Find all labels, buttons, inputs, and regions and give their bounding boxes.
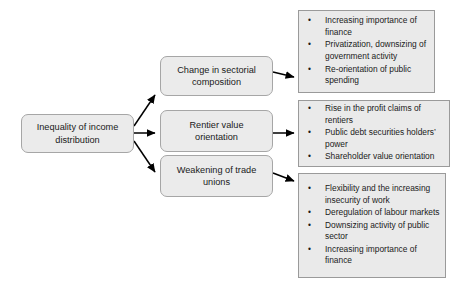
- list-item-label: Flexibility and the increasing insecurit…: [325, 183, 430, 205]
- arrow-source-to-unions: [134, 141, 155, 172]
- bullet-icon: •: [308, 151, 311, 163]
- list-item: • Rise in the profit claims of rentiers: [305, 103, 445, 126]
- arrow-sectorial-to-outcomes: [273, 72, 294, 77]
- outcomes-box-rentier[interactable]: • Rise in the profit claims of rentiers …: [298, 100, 450, 167]
- outcomes-list: • Flexibility and the increasing insecur…: [305, 183, 441, 268]
- list-item-label: Public debt securities holders’ power: [325, 127, 435, 149]
- node-label: Inequality of income distribution: [37, 121, 119, 146]
- list-item: • Flexibility and the increasing insecur…: [305, 183, 441, 206]
- list-item: • Increasing importance of finance: [305, 244, 441, 267]
- bullet-icon: •: [308, 220, 311, 232]
- list-item-label: Privatization, downsizing of government …: [325, 39, 426, 61]
- node-change-in-sectorial-composition[interactable]: Change in sectorial composition: [160, 56, 273, 96]
- list-item-label: Deregulation of labour markets: [325, 207, 440, 217]
- outcomes-list: • Rise in the profit claims of rentiers …: [305, 103, 445, 164]
- list-item-label: Downsizing activity of public sector: [325, 220, 429, 242]
- list-item: • Privatization, downsizing of governmen…: [305, 39, 430, 62]
- node-inequality-of-income-distribution[interactable]: Inequality of income distribution: [21, 114, 134, 153]
- outcomes-box-sectorial[interactable]: • Increasing importance of finance • Pri…: [298, 10, 435, 93]
- list-item: • Downsizing activity of public sector: [305, 220, 441, 243]
- node-weakening-of-trade-unions[interactable]: Weakening of trade unions: [160, 155, 273, 197]
- bullet-icon: •: [308, 207, 311, 219]
- list-item: • Deregulation of labour markets: [305, 207, 441, 219]
- arrow-unions-to-outcomes: [273, 173, 294, 181]
- list-item-label: Increasing importance of finance: [325, 244, 417, 266]
- bullet-icon: •: [308, 64, 311, 76]
- bullet-icon: •: [308, 244, 311, 256]
- node-label: Rentier value orientation: [189, 119, 243, 144]
- bullet-icon: •: [308, 183, 311, 195]
- list-item: • Re-orientation of public spending: [305, 64, 430, 87]
- bullet-icon: •: [308, 103, 311, 115]
- node-label: Weakening of trade unions: [177, 164, 257, 189]
- outcomes-list: • Increasing importance of finance • Pri…: [305, 15, 430, 88]
- bullet-icon: •: [308, 39, 311, 51]
- list-item: • Shareholder value orientation: [305, 151, 445, 163]
- outcomes-box-unions[interactable]: • Flexibility and the increasing insecur…: [298, 173, 446, 278]
- list-item: • Increasing importance of finance: [305, 15, 430, 38]
- list-item: • Public debt securities holders’ power: [305, 127, 445, 150]
- list-item-label: Rise in the profit claims of rentiers: [325, 103, 421, 125]
- bullet-icon: •: [308, 15, 311, 27]
- list-item-label: Shareholder value orientation: [325, 151, 434, 161]
- list-item-label: Increasing importance of finance: [325, 15, 417, 37]
- node-label: Change in sectorial composition: [177, 64, 256, 89]
- arrow-source-to-sectorial: [134, 95, 155, 126]
- node-rentier-value-orientation[interactable]: Rentier value orientation: [160, 110, 273, 152]
- bullet-icon: •: [308, 127, 311, 139]
- list-item-label: Re-orientation of public spending: [325, 64, 411, 86]
- diagram-canvas: Inequality of income distribution Change…: [0, 0, 464, 288]
